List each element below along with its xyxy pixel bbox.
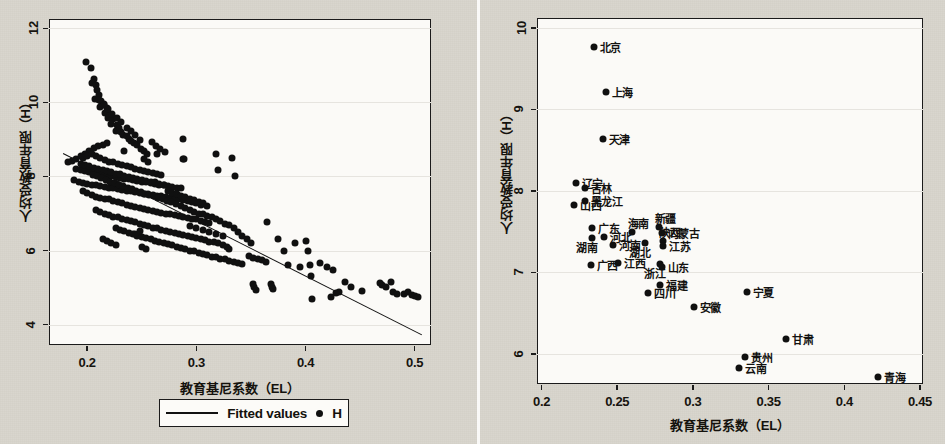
data-point bbox=[148, 139, 155, 146]
data-point-labelled bbox=[875, 373, 882, 380]
data-point bbox=[302, 237, 309, 244]
right-y-axis-title: 人均受教育年限（H） bbox=[497, 108, 516, 234]
x-tick-mark bbox=[196, 346, 198, 351]
y-tick-mark bbox=[531, 353, 536, 355]
data-point bbox=[239, 260, 246, 267]
data-point bbox=[180, 135, 187, 142]
data-point-labelled bbox=[658, 264, 665, 271]
point-label: 上海 bbox=[612, 84, 633, 100]
data-point bbox=[213, 150, 220, 157]
y-tick-mark bbox=[43, 176, 48, 178]
left-x-axis-title: 教育基尼系数（EL） bbox=[180, 378, 301, 397]
data-point-labelled bbox=[587, 262, 594, 269]
data-point-labelled bbox=[690, 304, 697, 311]
left-legend: Fitted values H bbox=[159, 399, 349, 427]
data-point-labelled bbox=[590, 43, 597, 50]
data-point-labelled bbox=[602, 89, 609, 96]
data-point bbox=[359, 287, 366, 294]
point-label: 山西 bbox=[580, 197, 601, 213]
data-point bbox=[264, 218, 271, 225]
point-label: 新疆 bbox=[655, 210, 676, 226]
gridline-y bbox=[49, 28, 431, 29]
data-point-labelled bbox=[581, 184, 588, 191]
y-tick-label: 6 bbox=[511, 350, 526, 357]
data-point bbox=[414, 294, 421, 301]
fitted-line-swatch bbox=[166, 412, 218, 414]
data-point-labelled bbox=[572, 179, 579, 186]
data-point bbox=[291, 240, 298, 247]
data-point-labelled bbox=[601, 234, 608, 241]
point-label: 江苏 bbox=[669, 238, 690, 254]
data-point bbox=[145, 159, 152, 166]
y-tick-label: 7 bbox=[511, 269, 526, 276]
x-tick-label: 0.25 bbox=[605, 394, 629, 409]
y-tick-mark bbox=[531, 190, 536, 192]
x-tick-mark bbox=[86, 346, 88, 351]
point-label: 云南 bbox=[745, 360, 766, 376]
x-tick-mark bbox=[768, 385, 770, 390]
data-point bbox=[329, 266, 336, 273]
point-label: 山东 bbox=[668, 259, 689, 275]
data-point-labelled bbox=[615, 259, 622, 266]
data-point-labelled bbox=[610, 242, 617, 249]
y-tick-label: 10 bbox=[514, 21, 529, 35]
x-tick-label: 0.3 bbox=[188, 355, 205, 370]
data-point bbox=[199, 227, 206, 234]
y-tick-label: 4 bbox=[23, 321, 38, 328]
x-tick-mark bbox=[919, 385, 921, 390]
y-tick-mark bbox=[531, 272, 536, 274]
data-point bbox=[204, 203, 211, 210]
point-label: 海南 bbox=[628, 215, 649, 231]
data-point bbox=[316, 260, 323, 267]
y-tick-mark bbox=[43, 102, 48, 104]
data-point bbox=[186, 223, 193, 230]
data-point bbox=[172, 200, 179, 207]
point-label: 四川 bbox=[654, 285, 675, 301]
y-tick-mark bbox=[43, 250, 48, 252]
data-point bbox=[180, 156, 187, 163]
gridline-y bbox=[49, 325, 431, 326]
data-point-labelled bbox=[660, 243, 667, 250]
y-tick-mark bbox=[43, 28, 48, 30]
data-point-labelled bbox=[589, 225, 596, 232]
data-point bbox=[306, 262, 313, 269]
data-point bbox=[229, 154, 236, 161]
legend-series-label: H bbox=[332, 406, 342, 421]
data-point bbox=[96, 97, 103, 104]
data-point bbox=[253, 286, 260, 293]
data-point-labelled bbox=[783, 336, 790, 343]
data-point bbox=[304, 248, 311, 255]
y-tick-mark bbox=[531, 27, 536, 29]
x-tick-mark bbox=[616, 385, 618, 390]
point-label: 天津 bbox=[609, 131, 630, 147]
data-point bbox=[297, 264, 304, 271]
data-point bbox=[348, 283, 355, 290]
x-tick-label: 0.4 bbox=[836, 394, 853, 409]
x-tick-label: 0.3 bbox=[684, 394, 701, 409]
right-scatter-panel: 北京上海天津辽宁吉林黑龙江山西广东新疆海南内蒙古河北湖南陕西河南湖北江苏广西江西… bbox=[477, 0, 945, 444]
left-plot-content bbox=[49, 19, 431, 345]
data-point-labelled bbox=[743, 288, 750, 295]
x-tick-label: 0.2 bbox=[533, 394, 550, 409]
x-tick-mark bbox=[305, 346, 307, 351]
data-point bbox=[226, 245, 233, 252]
legend-fitted-label: Fitted values bbox=[227, 406, 307, 421]
point-label: 青海 bbox=[884, 369, 905, 384]
series-dot-swatch bbox=[316, 410, 323, 417]
gridline-y bbox=[49, 251, 431, 252]
data-point bbox=[136, 137, 143, 144]
x-tick-label: 0.45 bbox=[908, 394, 932, 409]
point-label: 甘肃 bbox=[792, 331, 813, 347]
y-tick-mark bbox=[43, 324, 48, 326]
x-tick-mark bbox=[541, 385, 543, 390]
left-scatter-panel: 46810120.20.30.40.5 教育基尼系数（EL） 人均受教育年限（H… bbox=[0, 0, 477, 444]
right-plot-content: 北京上海天津辽宁吉林黑龙江山西广东新疆海南内蒙古河北湖南陕西河南湖北江苏广西江西… bbox=[537, 18, 923, 384]
x-tick-label: 0.2 bbox=[79, 355, 96, 370]
data-point bbox=[269, 286, 276, 293]
figure-page: 46810120.20.30.40.5 教育基尼系数（EL） 人均受教育年限（H… bbox=[0, 0, 945, 444]
x-tick-mark bbox=[844, 385, 846, 390]
point-label: 江西 bbox=[624, 255, 645, 271]
data-point bbox=[280, 248, 287, 255]
y-tick-label: 12 bbox=[26, 21, 41, 35]
x-tick-label: 0.4 bbox=[297, 355, 314, 370]
